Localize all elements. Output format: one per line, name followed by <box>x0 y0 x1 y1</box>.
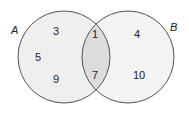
a-only-value: 5 <box>35 51 41 63</box>
b-only-value: 10 <box>133 69 145 81</box>
set-a-label: A <box>10 24 18 36</box>
set-b-label: B <box>170 21 177 33</box>
a-only-value: 3 <box>53 25 59 37</box>
b-only-value: 4 <box>134 28 140 40</box>
intersection-value: 7 <box>92 69 98 81</box>
intersection-value: 1 <box>92 28 98 40</box>
venn-diagram: A B 3 5 9 1 7 4 10 <box>0 0 189 116</box>
a-only-value: 9 <box>53 73 59 85</box>
